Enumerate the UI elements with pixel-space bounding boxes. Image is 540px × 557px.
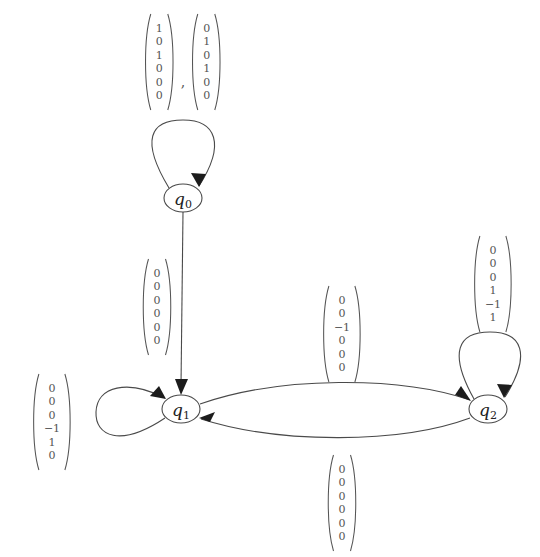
edge-q1-self-loop (96, 386, 166, 436)
vector-entry: 0 (339, 294, 346, 308)
paren-right-icon (353, 284, 364, 384)
vector-entry: −1 (44, 422, 60, 436)
vector-entry: −1 (485, 298, 501, 312)
edge-q2-to-q1 (199, 412, 470, 438)
vector-entry: 0 (490, 271, 497, 285)
edge-label-q1-to-q2: 0 0 −1 0 0 0 (320, 284, 364, 384)
arrowhead-q2-to-q1 (199, 412, 215, 422)
paren-left-icon (325, 453, 336, 553)
edge-q1-to-q2 (200, 382, 471, 404)
vector-entry: 0 (49, 449, 56, 463)
vector-entry: 0 (339, 530, 346, 544)
state-label-q2: q2 (479, 400, 497, 420)
paren-left-icon (471, 234, 482, 334)
state-label-q0: q0 (174, 189, 192, 209)
vector-entries: 0 0 0 0 0 0 (336, 453, 349, 553)
vector-entries: 1 0 1 0 0 0 (153, 12, 166, 112)
state-label-q2-sub: 2 (490, 409, 497, 422)
state-label-q1: q1 (172, 400, 190, 420)
paren-right-icon (166, 12, 177, 112)
vector-entry: 0 (203, 89, 210, 103)
vector-entry: −1 (334, 321, 350, 335)
vector-entry: 0 (339, 334, 346, 348)
paren-right-icon (504, 234, 515, 334)
column-vector-top-second: 0 1 0 1 0 0 (189, 12, 224, 112)
vector-entry: 0 (154, 321, 161, 335)
vector-entry: 0 (339, 517, 346, 531)
vector-entries: 0 0 0 0 0 0 (151, 257, 164, 357)
edge-label-q1-self-loop: 0 0 0 −1 1 0 (30, 372, 74, 472)
vector-separator-comma: , (177, 74, 189, 90)
vector-entry: 0 (154, 267, 161, 281)
vector-entries: 0 1 0 1 0 0 (200, 12, 213, 112)
paren-right-icon (213, 12, 224, 112)
edge-q2-self-loop (459, 332, 520, 399)
state-label-q1-sub: 1 (183, 409, 190, 422)
state-label-q2-base: q (479, 400, 490, 420)
vector-entry: 0 (339, 503, 346, 517)
vector-entry: 0 (156, 89, 163, 103)
paren-left-icon (140, 257, 151, 357)
vector-entry: 0 (339, 307, 346, 321)
vector-entry: 1 (156, 49, 163, 63)
vector-entry: 0 (339, 490, 346, 504)
vector-entries: 0 0 −1 0 0 0 (331, 284, 353, 384)
edge-label-q2-self-loop: 0 0 0 1 −1 1 (471, 234, 515, 334)
vector-entry: 0 (154, 307, 161, 321)
column-vector-top-first: 1 0 1 0 0 0 (142, 12, 177, 112)
state-label-q0-base: q (174, 189, 185, 209)
vector-entry: 0 (203, 76, 210, 90)
paren-left-icon (320, 284, 331, 384)
graph-edges-layer (0, 0, 540, 557)
paren-right-icon (349, 453, 360, 553)
vector-entry: 0 (156, 76, 163, 90)
vector-entry: 0 (49, 409, 56, 423)
paren-right-icon (164, 257, 175, 357)
paren-right-icon (63, 372, 74, 472)
state-label-q1-base: q (172, 400, 183, 420)
vector-entries: 0 0 0 1 −1 1 (482, 234, 504, 334)
vector-entry: 0 (156, 62, 163, 76)
vector-entry: 0 (203, 49, 210, 63)
paren-left-icon (142, 12, 153, 112)
arrowhead-q0-self (191, 173, 206, 187)
arrowhead-q2-self (497, 384, 512, 398)
vector-entry: 1 (490, 284, 497, 298)
vector-entry: 0 (339, 476, 346, 490)
vector-entry: 1 (203, 62, 210, 76)
edge-label-q2-to-q1: 0 0 0 0 0 0 (325, 453, 360, 553)
vector-entry: 0 (49, 382, 56, 396)
edge-label-q0-self-loop: 1 0 1 0 0 0 , 0 1 0 1 0 0 (142, 12, 224, 112)
vector-entry: 0 (339, 348, 346, 362)
vector-entry: 0 (203, 22, 210, 36)
vector-entry: 0 (156, 35, 163, 49)
arrowhead-q0-to-q1 (175, 379, 188, 395)
vector-entry: 0 (154, 334, 161, 348)
vector-entry: 1 (156, 22, 163, 36)
vector-entry: 1 (490, 311, 497, 325)
vector-entry: 0 (49, 395, 56, 409)
edge-label-q0-to-q1: 0 0 0 0 0 0 (140, 257, 175, 357)
vector-entry: 1 (203, 35, 210, 49)
paren-left-icon (30, 372, 41, 472)
vector-entry: 0 (490, 257, 497, 271)
vector-entry: 0 (154, 294, 161, 308)
paren-left-icon (189, 12, 200, 112)
vector-entry: 0 (154, 280, 161, 294)
vector-entry: 0 (339, 361, 346, 375)
vector-entry: 0 (490, 244, 497, 258)
edge-q0-to-q1 (175, 212, 188, 395)
state-label-q0-sub: 0 (185, 198, 192, 211)
automaton-diagram: q0 q1 q2 1 0 1 0 0 0 , (0, 0, 540, 557)
vector-entry: 1 (49, 436, 56, 450)
edge-q0-self-loop (152, 120, 215, 188)
vector-entry: 0 (339, 463, 346, 477)
vector-entries: 0 0 0 −1 1 0 (41, 372, 63, 472)
